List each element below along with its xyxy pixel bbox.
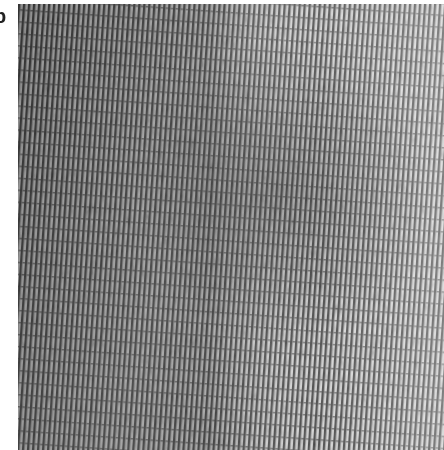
lattice-micrograph-image — [18, 4, 444, 450]
panel-label: b — [0, 6, 6, 26]
